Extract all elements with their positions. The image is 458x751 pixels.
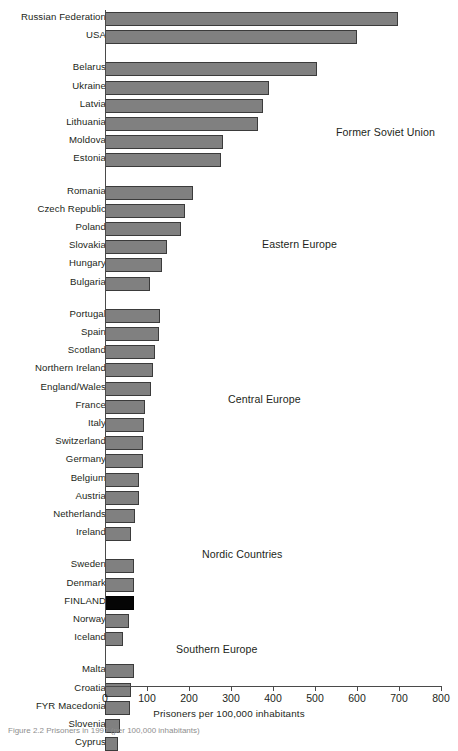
bar-category-label: Bulgaria	[0, 275, 106, 289]
bar-row: Ireland	[0, 527, 458, 541]
bar-row: Austria	[0, 491, 458, 505]
bar-category-label: Northern Ireland	[0, 361, 106, 375]
bar-category-label: Ireland	[0, 525, 106, 539]
bar-row: Sweden	[0, 559, 458, 573]
bar	[105, 632, 123, 646]
bar-row: Estonia	[0, 153, 458, 167]
bar-category-label: Estonia	[0, 151, 106, 165]
bar-row: Norway	[0, 614, 458, 628]
x-axis-tick-label: 300	[211, 692, 251, 705]
bar	[105, 309, 160, 323]
bar-category-label: USA	[0, 28, 106, 42]
bar-row: Denmark	[0, 578, 458, 592]
bar-category-label: Malta	[0, 662, 106, 676]
x-axis-tick	[357, 686, 358, 691]
bar	[105, 81, 269, 95]
bar-category-label: Netherlands	[0, 507, 106, 521]
x-axis-tick	[441, 686, 442, 691]
bar	[105, 240, 167, 254]
y-axis-line	[105, 10, 106, 686]
bar	[105, 99, 263, 113]
bar	[105, 153, 221, 167]
group-annotation-label: Central Europe	[228, 393, 301, 405]
bar-row: USA	[0, 30, 458, 44]
bar-category-label: Russian Federation	[0, 10, 106, 24]
bar	[105, 345, 155, 359]
bar-chart-plot-area: Russian FederationUSABelarusUkraineLatvi…	[0, 0, 458, 690]
bar-row: Poland	[0, 222, 458, 236]
bar	[105, 664, 134, 678]
group-annotation-label: Eastern Europe	[262, 238, 337, 250]
bar	[105, 135, 223, 149]
x-axis-tick	[189, 686, 190, 691]
bar-category-label: Denmark	[0, 576, 106, 590]
bar-category-label: Moldova	[0, 133, 106, 147]
bar-row: Belarus	[0, 62, 458, 76]
bar	[105, 509, 135, 523]
bar-category-label: Switzerland	[0, 434, 106, 448]
bar	[105, 30, 357, 44]
bar-category-label: Germany	[0, 452, 106, 466]
figure-caption: Figure 2.2 Prisoners in 1997 (per 100,00…	[8, 726, 454, 735]
bar	[105, 491, 139, 505]
bar	[105, 473, 139, 487]
bar-row: Scotland	[0, 345, 458, 359]
bar-category-label: Italy	[0, 416, 106, 430]
bar-category-label: Romania	[0, 184, 106, 198]
bar	[105, 436, 143, 450]
bar	[105, 258, 162, 272]
bar	[105, 363, 153, 377]
x-axis-tick-label: 0	[85, 692, 125, 705]
bar-row: Switzerland	[0, 436, 458, 450]
bar	[105, 614, 129, 628]
bar-category-label: FINLAND	[0, 594, 106, 608]
bar-highlighted	[105, 596, 134, 610]
x-axis-tick-label: 100	[127, 692, 167, 705]
bar-category-label: Lithuania	[0, 115, 106, 129]
bar	[105, 12, 398, 26]
bar-category-label: Latvia	[0, 97, 106, 111]
bar-row: Northern Ireland	[0, 363, 458, 377]
bar-category-label: Iceland	[0, 630, 106, 644]
bar	[105, 204, 185, 218]
x-axis-tick	[105, 686, 106, 691]
group-annotation-label: Former Soviet Union	[336, 126, 435, 138]
x-axis-tick	[273, 686, 274, 691]
x-axis-tick-label: 600	[337, 692, 377, 705]
group-annotation-label: Southern Europe	[176, 643, 258, 655]
bar	[105, 418, 144, 432]
x-axis-tick-label: 200	[169, 692, 209, 705]
bar-row: Czech Republic	[0, 204, 458, 218]
x-axis-tick-label: 400	[253, 692, 293, 705]
x-axis-tick-label: 500	[295, 692, 335, 705]
group-annotation-label: Nordic Countries	[202, 548, 283, 560]
bar-category-label: Slovakia	[0, 238, 106, 252]
bar-category-label: Norway	[0, 612, 106, 626]
bar	[105, 327, 159, 341]
bar-row: Netherlands	[0, 509, 458, 523]
bar-row: Portugal	[0, 309, 458, 323]
bar-category-label: Hungary	[0, 256, 106, 270]
bar-row: Malta	[0, 664, 458, 678]
x-axis-tick	[399, 686, 400, 691]
bar-category-label: Cyprus	[0, 735, 106, 749]
x-axis-tick-label: 800	[421, 692, 458, 705]
bar	[105, 277, 150, 291]
x-axis-tick	[315, 686, 316, 691]
bar-category-label: Scotland	[0, 343, 106, 357]
x-axis-title: Prisoners per 100,000 inhabitants	[0, 708, 458, 719]
bar-row: Bulgaria	[0, 277, 458, 291]
bar-row: Hungary	[0, 258, 458, 272]
bar-category-label: Belgium	[0, 471, 106, 485]
bar	[105, 527, 131, 541]
bar-row: Slovakia	[0, 240, 458, 254]
bar-row: Germany	[0, 454, 458, 468]
bar-category-label: Austria	[0, 489, 106, 503]
bar-category-label: Ukraine	[0, 79, 106, 93]
bar-row: Cyprus	[0, 737, 458, 751]
bar	[105, 737, 118, 751]
bar-category-label: Portugal	[0, 307, 106, 321]
bar	[105, 222, 181, 236]
bar-row: Spain	[0, 327, 458, 341]
